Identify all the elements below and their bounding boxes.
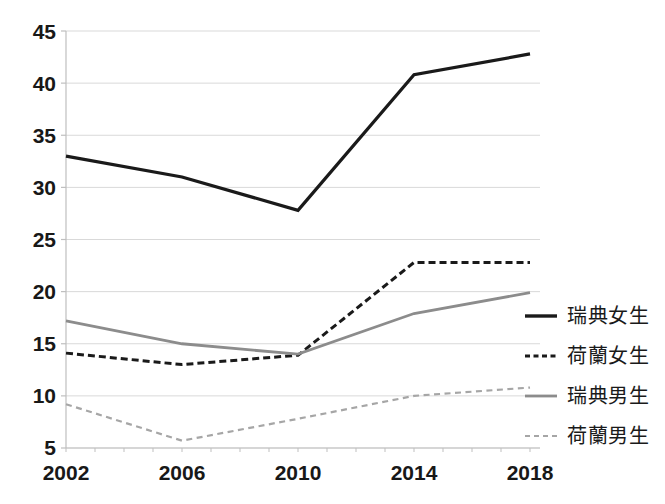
line-solid-icon	[524, 389, 558, 403]
legend-item-label: 荷蘭女生	[567, 346, 649, 366]
data-series-group	[66, 54, 530, 441]
series-line	[66, 54, 530, 210]
line-dashed-icon	[524, 429, 558, 443]
legend-item[interactable]: 瑞典男生	[524, 376, 664, 416]
line-dashed-icon	[524, 349, 558, 363]
legend-item[interactable]: 瑞典女生	[524, 296, 664, 336]
legend-item[interactable]: 荷蘭男生	[524, 416, 664, 456]
legend-item-label: 荷蘭男生	[567, 426, 649, 446]
line-chart: 45 40 35 30 25 20 15 10 5 2002 2006 2010…	[0, 0, 665, 504]
series-line	[66, 262, 530, 364]
series-line	[66, 293, 530, 355]
gridlines	[66, 31, 540, 448]
legend-item-label: 瑞典女生	[567, 306, 649, 326]
legend: 瑞典女生 荷蘭女生 瑞典男生 荷蘭男生	[524, 296, 664, 456]
legend-item[interactable]: 荷蘭女生	[524, 336, 664, 376]
legend-item-label: 瑞典男生	[567, 386, 649, 406]
line-solid-icon	[524, 309, 558, 323]
